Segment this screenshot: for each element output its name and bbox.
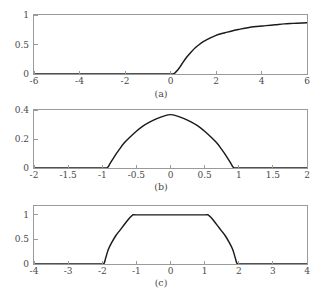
tick-marks-a: [33, 14, 309, 77]
x-tick-label: -2: [30, 171, 39, 180]
x-tick-label: 2: [236, 267, 242, 276]
x-tick-label: 1: [236, 171, 242, 180]
x-tick-label: -3: [64, 267, 73, 276]
x-tick-label: 0: [168, 171, 174, 180]
y-tick-label: 0: [0, 70, 29, 79]
y-tick-label: 0: [0, 164, 29, 173]
x-tick-label: -1.5: [59, 171, 76, 180]
x-tick-label: -4: [30, 267, 39, 276]
x-tick-label: 0.5: [197, 171, 211, 180]
panel-b: -2-1.5-1-0.500.511.52 00.20.4 (b): [0, 95, 322, 193]
panel-c: -4-3-2-101234 00.51 (c): [0, 190, 322, 293]
panel-a: -6-4-20246 00.51 (a): [0, 0, 322, 100]
x-tick-label: 3: [270, 267, 276, 276]
x-tick-label: -0.5: [128, 171, 145, 180]
y-tick-label: 0.5: [0, 235, 29, 244]
x-tick-label: -2: [98, 267, 107, 276]
x-tick-label: 1.5: [266, 171, 280, 180]
y-tick-label: 0: [0, 260, 29, 269]
x-tick-label: 0: [168, 77, 174, 86]
x-tick-label: 1: [202, 267, 208, 276]
x-tick-label: -4: [75, 77, 84, 86]
x-tick-label: 0: [168, 267, 174, 276]
y-tick-label: 1: [0, 11, 29, 20]
x-tick-label: 2: [213, 77, 219, 86]
x-tick-label: 6: [304, 77, 310, 86]
figure-container: -6-4-20246 00.51 (a) -2-1.5-1-0.500.511.…: [0, 0, 322, 293]
x-tick-label: 4: [304, 267, 310, 276]
caption-c: (c): [0, 277, 322, 288]
x-tick-label: -1: [132, 267, 141, 276]
y-tick-label: 0.2: [0, 135, 29, 144]
y-tick-label: 0.5: [0, 40, 29, 49]
y-tick-label: 1: [0, 210, 29, 219]
x-tick-label: 2: [304, 171, 310, 180]
x-tick-label: -2: [121, 77, 130, 86]
x-tick-label: 4: [259, 77, 265, 86]
y-tick-label: 0.4: [0, 106, 29, 115]
tick-marks-b: [33, 109, 309, 171]
tick-marks-c: [33, 205, 309, 267]
x-tick-label: -1: [98, 171, 107, 180]
x-tick-label: -6: [30, 77, 39, 86]
